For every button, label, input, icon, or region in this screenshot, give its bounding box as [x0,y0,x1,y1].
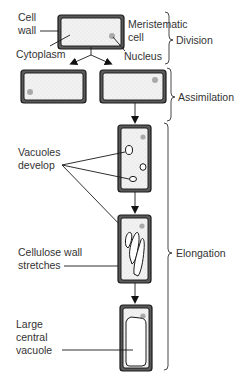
svg-text:Cell: Cell [18,11,36,23]
cellulose-wall-stretches-label: Cellulose wall stretches [18,246,118,271]
svg-text:Cytoplasm: Cytoplasm [16,48,66,60]
svg-text:Division: Division [176,34,213,46]
svg-text:central: central [16,331,48,343]
elongation-brace: Elongation [164,123,226,370]
cell-growth-diagram: Cell wall Cytoplasm Meristematic cell Nu… [0,0,244,378]
svg-text:wall: wall [17,24,36,36]
svg-text:vacuole: vacuole [16,344,52,356]
vacuole [140,164,146,171]
vacuole-developing-cell [118,125,151,192]
vacuole [126,146,133,155]
vacuole [130,176,137,181]
meristematic-cell [58,15,124,49]
svg-text:Large: Large [16,318,43,330]
svg-text:stretches: stretches [18,259,61,271]
central-vacuole [126,317,146,366]
svg-text:Vacuoles: Vacuoles [18,146,60,158]
daughter-cell-right [100,70,166,103]
cell-wall-label: Cell wall [17,11,59,36]
svg-text:Assimilation: Assimilation [178,91,234,103]
vacuoles-develop-label: Vacuoles develop [18,146,129,229]
large-central-vacuole-label: Large central vacuole [16,318,133,356]
svg-text:cell: cell [128,31,144,43]
stretching-cell [118,215,151,283]
svg-text:Meristematic: Meristematic [128,18,188,30]
svg-text:Nucleus: Nucleus [124,50,162,62]
daughter-cell-left [21,70,86,103]
assimilation-brace: Assimilation [167,68,234,121]
svg-text:develop: develop [18,159,55,171]
svg-text:Elongation: Elongation [176,247,226,259]
large-vacuole-cell [120,305,152,371]
svg-text:Cellulose wall: Cellulose wall [18,246,82,258]
